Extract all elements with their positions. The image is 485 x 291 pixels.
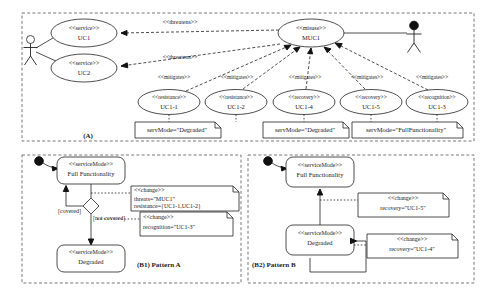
use-case-uc2-stereotype: <<service>> bbox=[69, 60, 100, 66]
use-case-uc1-2-name: UC1-2 bbox=[227, 103, 245, 110]
b2-note-2-stereotype: <<change>> bbox=[397, 236, 428, 242]
mitigates-label-3: <<mitigates>> bbox=[289, 74, 322, 80]
b1-note-change-threats: <<change>> threats="MUC1" resistance={UC… bbox=[131, 186, 239, 211]
mitigates-relation-uc1-2 bbox=[243, 47, 300, 89]
threatens-relation-uc2: <<threatens>> bbox=[121, 44, 280, 68]
use-case-uc1-5-name: UC1-5 bbox=[362, 103, 380, 110]
note-servmode-1: servMode="Degraded" bbox=[135, 122, 221, 138]
panel-b1-caption: (B1) Pattern A bbox=[137, 261, 181, 269]
b1-note-2-stereotype: <<change>> bbox=[143, 214, 174, 220]
use-case-uc1-name: UC1 bbox=[78, 34, 90, 41]
threatens-label-uc1: <<threatens>> bbox=[162, 19, 198, 25]
note-servmode-2: servMode="Degraded" bbox=[263, 122, 349, 138]
use-case-uc1-4[interactable]: <<recovery>> UC1-4 bbox=[273, 90, 335, 115]
use-case-uc1-1[interactable]: <<resistance>> UC1-1 bbox=[138, 90, 200, 115]
b2-note-change-recovery-uc1-5: <<change>> recovery="UC1-5" bbox=[358, 193, 449, 217]
panel-b2-caption: (B2) Pattern B bbox=[252, 261, 296, 269]
misuse-case-muc1-stereotype: <<misuse>> bbox=[296, 25, 327, 31]
b1-note-change-recognition: <<change>> recognition="UC1-3" bbox=[140, 212, 233, 236]
b2-transition-degraded-to-full bbox=[317, 189, 322, 225]
mitigates-relation-uc1-4 bbox=[306, 48, 313, 89]
use-case-uc1-3-name: UC1-3 bbox=[428, 103, 446, 110]
b2-note-1-line-1: recovery="UC1-5" bbox=[380, 205, 426, 211]
b1-note-1-stereotype: <<change>> bbox=[134, 187, 165, 193]
b2-note-2-line-1: recovery="UC1-4" bbox=[389, 246, 435, 252]
b1-guard-covered: [covered] bbox=[58, 208, 81, 215]
note-servmode-3-text: servMode="FullFunctionality" bbox=[366, 126, 446, 133]
note-servmode-1-text: servMode="Degraded" bbox=[147, 126, 208, 133]
mitigates-label-5: <<mitigates>> bbox=[416, 74, 449, 80]
b2-state-full-functionality[interactable]: <<serviceMode>> Full Functionality bbox=[286, 157, 354, 187]
b2-note-change-recovery-uc1-4: <<change>> recovery="UC1-4" bbox=[367, 234, 458, 258]
b1-note-1-line-1: threats="MUC1" bbox=[134, 196, 175, 202]
use-case-uc1-stereotype: <<service>> bbox=[69, 25, 100, 31]
b2-state-full-functionality-stereotype: <<serviceMode>> bbox=[298, 162, 343, 168]
b1-transition-not-covered: [not covered] bbox=[88, 214, 125, 245]
attacker-actor bbox=[407, 21, 422, 52]
association-user-uc2 bbox=[36, 52, 58, 62]
b1-note-2-line-1: recognition="UC1-3" bbox=[143, 224, 195, 230]
b1-initial-node bbox=[35, 157, 58, 171]
use-case-uc1-3-stereotype: <<recognition>> bbox=[418, 94, 455, 100]
b1-state-full-functionality-name: Full Functionality bbox=[68, 170, 116, 177]
b1-state-degraded-stereotype: <<serviceMode>> bbox=[69, 249, 114, 255]
b1-state-full-functionality-stereotype: <<serviceMode>> bbox=[69, 161, 114, 167]
b1-transition-covered: [covered] bbox=[58, 186, 83, 216]
panel-a-caption: (A) bbox=[83, 132, 93, 140]
threatens-relation-uc1: <<threatens>> bbox=[121, 19, 279, 35]
use-case-uc1-2-stereotype: <<resistance>> bbox=[219, 94, 253, 100]
b2-state-full-functionality-name: Full Functionality bbox=[297, 171, 345, 178]
note-servmode-2-text: servMode="Degraded" bbox=[275, 126, 336, 133]
mitigates-label-2: <<mitigates>> bbox=[221, 74, 254, 80]
use-case-uc1-4-stereotype: <<recovery>> bbox=[288, 94, 320, 100]
uml-misuse-case-figure: <<service>> UC1 <<service>> UC2 <<misuse… bbox=[0, 0, 485, 291]
use-case-uc1[interactable]: <<service>> UC1 bbox=[51, 19, 117, 47]
b2-state-degraded-name: Degraded bbox=[307, 239, 333, 246]
threatens-label-uc2: <<threatens>> bbox=[162, 54, 198, 60]
mitigates-relation-uc1-3 bbox=[335, 43, 428, 90]
b2-state-degraded[interactable]: <<serviceMode>> Degraded bbox=[286, 225, 354, 255]
note-servmode-3: servMode="FullFunctionality" bbox=[352, 122, 463, 138]
use-case-uc1-4-name: UC1-4 bbox=[295, 103, 313, 110]
b2-initial-node bbox=[264, 157, 287, 171]
user-actor bbox=[24, 36, 38, 66]
b1-state-degraded-name: Degraded bbox=[78, 258, 104, 265]
misuse-case-muc1[interactable]: <<misuse>> MUC1 bbox=[278, 19, 344, 47]
use-case-uc2-name: UC2 bbox=[78, 69, 90, 76]
use-case-uc1-5[interactable]: <<recovery>> UC1-5 bbox=[340, 90, 402, 115]
use-case-uc1-2[interactable]: <<resistance>> UC1-2 bbox=[205, 90, 267, 115]
mitigates-relation-uc1-1 bbox=[186, 45, 291, 91]
diagram-canvas: <<service>> UC1 <<service>> UC2 <<misuse… bbox=[0, 0, 485, 291]
b1-state-full-functionality[interactable]: <<serviceMode>> Full Functionality bbox=[57, 157, 125, 184]
mitigates-label-4: <<mitigates>> bbox=[351, 74, 384, 80]
use-case-uc1-1-stereotype: <<resistance>> bbox=[152, 94, 186, 100]
misuse-case-muc1-name: MUC1 bbox=[302, 34, 320, 41]
b1-state-degraded[interactable]: <<serviceMode>> Degraded bbox=[57, 245, 125, 272]
mitigates-relation-uc1-5 bbox=[324, 47, 365, 89]
b1-decision-node[interactable] bbox=[83, 198, 99, 214]
use-case-uc2[interactable]: <<service>> UC2 bbox=[51, 54, 117, 82]
use-case-uc1-5-stereotype: <<recovery>> bbox=[355, 94, 387, 100]
b2-state-degraded-stereotype: <<serviceMode>> bbox=[298, 230, 343, 236]
b1-note-1-line-2: resistance={UC1-1,UC1-2} bbox=[134, 203, 201, 210]
use-case-uc1-3[interactable]: <<recognition>> UC1-3 bbox=[406, 90, 468, 115]
mitigates-label-1: <<mitigates>> bbox=[158, 74, 191, 80]
b2-note-1-stereotype: <<change>> bbox=[388, 195, 419, 201]
use-case-uc1-1-name: UC1-1 bbox=[160, 103, 178, 110]
